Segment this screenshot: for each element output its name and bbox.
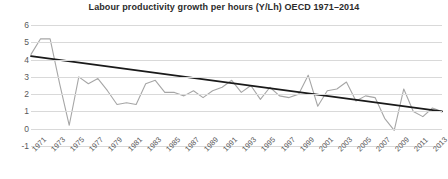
y-axis-tick-label: 4 — [3, 56, 29, 64]
y-axis-tick-label: 3 — [3, 73, 29, 81]
y-axis: 6543210-1 — [0, 25, 29, 146]
y-axis-tick-label: 5 — [3, 38, 29, 46]
chart-title: Labour productivity growth per hours (Y/… — [0, 2, 448, 12]
gridline — [31, 129, 442, 130]
y-axis-tick-label: 2 — [3, 90, 29, 98]
chart-container: Labour productivity growth per hours (Y/… — [0, 0, 448, 179]
x-axis: 1971197319751977197919811983198519871989… — [31, 147, 442, 179]
trendline — [31, 56, 442, 111]
y-axis-tick-label: 0 — [3, 125, 29, 133]
gridline — [31, 60, 442, 61]
gridline — [31, 77, 442, 78]
gridline — [31, 25, 442, 26]
gridline — [31, 94, 442, 95]
gridline — [31, 42, 442, 43]
gridline — [31, 111, 442, 112]
y-axis-tick-label: 1 — [3, 107, 29, 115]
y-axis-tick-label: 6 — [3, 21, 29, 29]
y-axis-tick-label: -1 — [3, 142, 29, 150]
plot-area — [31, 25, 442, 146]
